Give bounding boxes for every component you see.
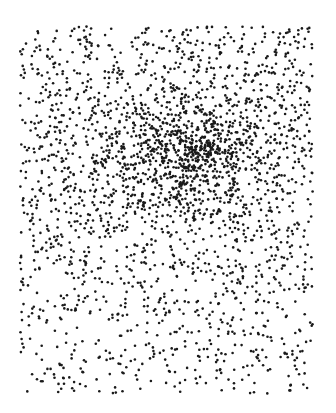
background [0,0,336,413]
stipple-illustration [0,0,336,413]
